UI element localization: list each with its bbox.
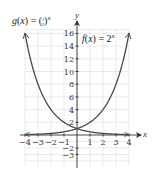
x-tick-label: 3	[113, 138, 118, 147]
y-tick-label: 16	[64, 29, 74, 38]
x-tick-label: −2	[45, 138, 57, 147]
x-tick-label: 2	[100, 138, 105, 147]
y-tick-label: 4	[69, 106, 74, 115]
x-tick-label: −4	[19, 138, 31, 147]
y-tick-label: 2	[69, 118, 74, 127]
f-function-label: f(x) = 2x	[82, 32, 116, 45]
y-tick-label: 6	[69, 93, 74, 102]
x-tick-label: −3	[32, 138, 44, 147]
y-tick-label: 14	[64, 42, 74, 51]
y-tick-label: 12	[64, 55, 74, 64]
x-axis-title: x	[142, 129, 147, 139]
g-function-label: g(x) = (12)x	[12, 14, 51, 27]
y-tick-label: 8	[69, 80, 74, 89]
exponential-functions-graph: −4−3−2−11234161412108642−2−3 x y g(x) = …	[0, 0, 155, 171]
x-tick-label: 4	[126, 138, 131, 147]
y-tick-label: 10	[64, 68, 74, 77]
x-tick-label: 1	[87, 138, 92, 147]
y-tick-label: −3	[62, 151, 74, 160]
y-axis-title: y	[74, 10, 79, 20]
tick-labels: −4−3−2−11234161412108642−2−3	[19, 29, 131, 159]
